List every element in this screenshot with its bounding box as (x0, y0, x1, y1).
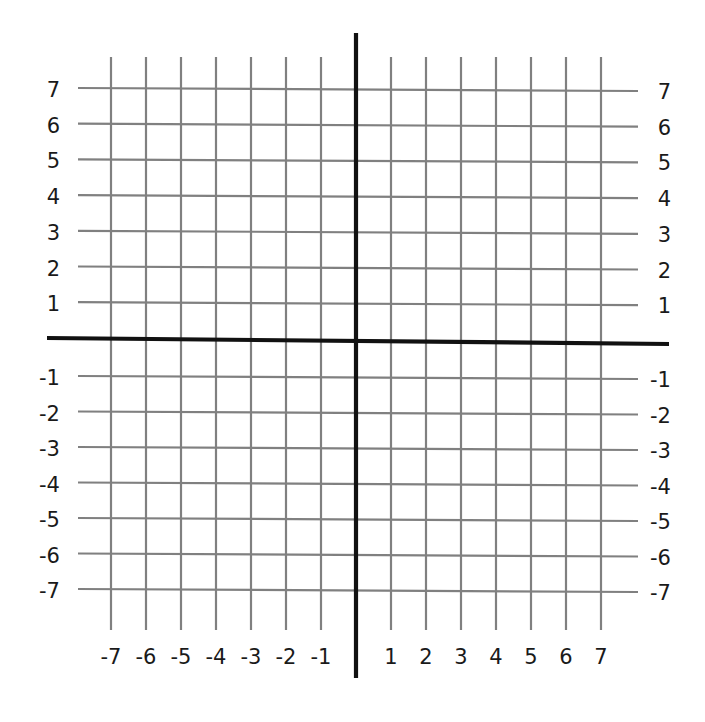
y-tick-label-right: 4 (658, 187, 671, 211)
x-tick-label: -3 (241, 645, 262, 669)
y-tick-label-left: 4 (47, 185, 60, 209)
y-tick-label-right: -6 (650, 546, 671, 570)
y-tick-label-right: -3 (650, 439, 671, 463)
y-tick-label-left: -7 (39, 579, 60, 603)
y-tick-label-left: -1 (39, 366, 60, 390)
y-tick-label-right: 6 (658, 116, 671, 140)
y-tick-label-left: 5 (47, 149, 60, 173)
y-tick-label-left: -6 (39, 544, 60, 568)
y-tick-label-left: -5 (39, 508, 60, 532)
y-tick-labels-left: 7654321-1-2-3-4-5-6-7 (39, 78, 60, 603)
y-tick-label-right: -2 (650, 404, 671, 428)
y-tick-label-right: -4 (650, 475, 671, 499)
y-tick-label-left: -4 (39, 473, 60, 497)
x-tick-label: -4 (206, 645, 227, 669)
y-tick-label-right: -5 (650, 510, 671, 534)
y-tick-label-right: 3 (658, 223, 671, 247)
x-tick-label: -1 (311, 645, 332, 669)
y-tick-label-right: 1 (658, 294, 671, 318)
x-tick-label: 2 (419, 645, 432, 669)
x-tick-label: -5 (171, 645, 192, 669)
y-tick-label-right: -1 (650, 368, 671, 392)
y-tick-label-left: 1 (47, 292, 60, 316)
x-tick-label: 1 (384, 645, 397, 669)
y-tick-label-left: -2 (39, 402, 60, 426)
x-tick-label: 6 (559, 645, 572, 669)
y-tick-label-left: 6 (47, 114, 60, 138)
x-tick-label: 5 (524, 645, 537, 669)
y-tick-label-left: 3 (47, 221, 60, 245)
x-tick-label: -6 (136, 645, 157, 669)
x-tick-label: 3 (454, 645, 467, 669)
y-tick-label-left: 7 (47, 78, 60, 102)
y-tick-label-left: 2 (47, 257, 60, 281)
x-tick-label: -2 (276, 645, 297, 669)
y-tick-label-right: 2 (658, 259, 671, 283)
x-tick-label: 4 (489, 645, 502, 669)
y-tick-label-left: -3 (39, 437, 60, 461)
y-tick-label-right: -7 (650, 581, 671, 605)
coordinate-plane: 7654321-1-2-3-4-5-6-7 7654321-1-2-3-4-5-… (0, 0, 705, 722)
x-tick-label: 7 (594, 645, 607, 669)
y-tick-label-right: 7 (658, 80, 671, 104)
x-tick-label: -7 (101, 645, 122, 669)
y-tick-label-right: 5 (658, 151, 671, 175)
